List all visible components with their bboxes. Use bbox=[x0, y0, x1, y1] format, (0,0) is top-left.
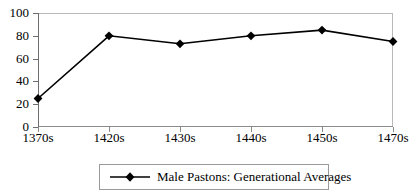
y-axis-tick bbox=[33, 13, 38, 14]
diamond-marker bbox=[109, 170, 151, 184]
x-axis-tick-label: 1370s bbox=[3, 131, 73, 145]
plot-border-top bbox=[38, 13, 393, 14]
y-axis-tick-label: 100 bbox=[0, 6, 29, 19]
y-axis-tick bbox=[33, 59, 38, 60]
legend[interactable]: Male Pastons: Generational Averages bbox=[99, 164, 329, 190]
x-axis-tick-label: 1470s bbox=[358, 131, 419, 145]
y-axis-tick-label: 40 bbox=[0, 74, 29, 87]
legend-label: Male Pastons: Generational Averages bbox=[157, 170, 351, 184]
x-axis-tick-label: 1440s bbox=[216, 131, 286, 145]
y-axis-line bbox=[38, 13, 39, 128]
y-axis-tick bbox=[33, 104, 38, 105]
x-axis-tick-label: 1420s bbox=[74, 131, 144, 145]
plot-border-right bbox=[392, 13, 393, 127]
x-axis-line bbox=[38, 126, 393, 127]
y-axis-tick-label: 80 bbox=[0, 29, 29, 42]
y-axis-tick bbox=[33, 81, 38, 82]
x-axis-tick-label: 1430s bbox=[145, 131, 215, 145]
line-chart: 020406080100 1370s1420s1430s1440s1450s14… bbox=[0, 0, 419, 196]
y-axis-tick bbox=[33, 36, 38, 37]
plot-area bbox=[38, 13, 393, 127]
y-axis-tick-label: 20 bbox=[0, 97, 29, 110]
x-axis-tick-label: 1450s bbox=[287, 131, 357, 145]
y-axis-tick-label: 60 bbox=[0, 52, 29, 65]
